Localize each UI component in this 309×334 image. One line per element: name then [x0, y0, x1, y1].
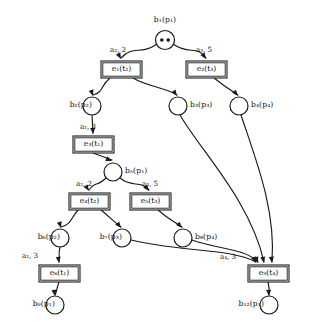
transition-label-e9: e₉(t₄): [248, 269, 289, 277]
transition-label-e4: e₄(t₂): [69, 197, 110, 205]
petri-net-diagram: b₁(p₁)b₂(p₂)b₃(p₃)b₄(p₄)b₅(p₁)b₆(p₂)b₇(p…: [0, 0, 309, 334]
transition-layer: [39, 61, 289, 282]
place-circle-b4: [230, 97, 248, 115]
place-b5[interactable]: [104, 163, 122, 181]
arc-label-e6: a₁, 3: [22, 252, 38, 259]
arc-label-e4: a₂, 2: [76, 180, 92, 187]
arc-layer: [55, 44, 273, 295]
head-b2: [89, 89, 96, 96]
place-label-b3: b₃(p₃): [190, 101, 212, 109]
place-label-b4: b₄(p₄): [251, 101, 273, 109]
head-b3: [171, 89, 179, 97]
arc-label-e3: a₁, 3: [80, 123, 96, 130]
head-e6: [56, 257, 62, 264]
arc-e1-to-b3: [133, 78, 177, 95]
place-b4[interactable]: [230, 97, 248, 115]
place-label-b2: b₂(p₂): [70, 101, 92, 109]
arc-e4-to-b6: [61, 210, 78, 227]
place-label-b6: b₆(p₂): [38, 233, 60, 241]
head-e9c: [260, 256, 266, 263]
place-circle-b3: [169, 97, 187, 115]
place-b8[interactable]: [174, 229, 192, 247]
place-label-b12: b₁₂(p₁): [239, 300, 264, 308]
place-label-b5: b₅(p₁): [125, 167, 147, 175]
petri-net-canvas: [0, 0, 309, 334]
place-circle-b5: [104, 163, 122, 181]
place-label-b1: b₁(p₁): [150, 16, 180, 24]
place-label-b8: b₈(p₄): [195, 233, 217, 241]
place-circle-b8: [174, 229, 192, 247]
arc-label-e2: a₃, 5: [196, 46, 212, 53]
arc-b4-to-e9: [241, 115, 273, 262]
transition-label-e3: e₃(t₁): [73, 140, 114, 148]
place-circle-b1: [156, 31, 175, 50]
place-layer: [46, 31, 278, 315]
transition-label-e2: e₂(t₃): [186, 65, 227, 73]
head-e9d: [269, 257, 275, 264]
place-label-b9: b₉(p₁): [33, 300, 55, 308]
transition-label-e1: e₁(t₂): [101, 65, 142, 73]
arc-b1-to-e1: [121, 44, 157, 58]
transition-label-e6: e₆(t₁): [39, 269, 80, 277]
arc-e1-to-b2: [93, 78, 110, 95]
transition-label-e5: e₅(t₃): [130, 197, 171, 205]
token-dot-b1-2: [166, 38, 170, 42]
arc-label-e9: a₄, 3: [220, 253, 236, 260]
head-b12: [266, 290, 271, 297]
place-b1[interactable]: [156, 31, 175, 50]
place-b3[interactable]: [169, 97, 187, 115]
place-label-b7: b₇(p₃): [100, 233, 122, 241]
head-b6: [57, 221, 64, 228]
arc-label-e1: a₂, 2: [110, 46, 126, 53]
arc-label-e5: a₃, 5: [142, 180, 158, 187]
token-dot-b1-1: [160, 38, 164, 42]
